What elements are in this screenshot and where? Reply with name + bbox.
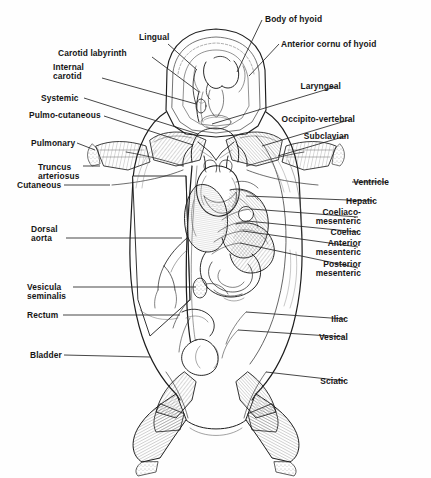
label-sciatic: Sciatic [320, 377, 348, 386]
leader-line-internal-carotid [102, 78, 196, 104]
leader-line-bladder [64, 355, 150, 357]
label-body-of-hyoid: Body of hyoid [265, 15, 322, 24]
body-wall-flap [133, 176, 190, 336]
label-line: mesenteric [316, 217, 361, 226]
label-line: Lingual [139, 33, 169, 42]
label-line: Occipito-vertebral [282, 115, 355, 124]
label-laryngeal: Laryngeal [301, 82, 341, 91]
label-line: Body of hyoid [265, 15, 322, 24]
leader-line-pulmo-cutaneous [104, 116, 193, 145]
leader-line-lingual [168, 44, 197, 70]
label-coeliac: Coeliac [331, 228, 362, 237]
label-line: Pulmo-cutaneous [29, 111, 101, 120]
label-line: aorta [31, 234, 58, 243]
label-line: Hepatic [346, 197, 377, 206]
label-pulmo-cutaneous: Pulmo-cutaneous [29, 111, 101, 120]
label-vesical: Vesical [319, 333, 348, 342]
label-line: Laryngeal [301, 82, 341, 91]
label-line: Systemic [41, 94, 79, 103]
label-line: Rectum [27, 311, 58, 320]
label-posterior-mesenteric: Posteriormesenteric [316, 260, 361, 278]
label-truncus-arteriosus: Truncusarteriosus [38, 163, 80, 181]
label-line: Cutaneous [17, 181, 61, 190]
label-line: Sciatic [320, 377, 348, 386]
label-coeliaco-mesenteric: Coeliaco-mesenteric [316, 208, 361, 226]
label-carotid-labyrinth: Carotid labyrinth [58, 49, 127, 58]
label-line: Iliac [331, 315, 348, 324]
anatomical-plate: Carotid labyrinthInternalcarotidSystemic… [0, 0, 431, 478]
label-subclavian: Subclavian [304, 132, 349, 141]
label-line: mesenteric [316, 248, 361, 257]
leader-line-body-of-hyoid [237, 20, 262, 72]
leader-line-anterior-cornu-of-hyoid [249, 44, 279, 76]
label-systemic: Systemic [41, 94, 79, 103]
label-line: Pulmonary [31, 139, 75, 148]
label-line: Vesical [319, 333, 348, 342]
label-line: mesenteric [316, 269, 361, 278]
label-line: Subclavian [304, 132, 349, 141]
label-lingual: Lingual [139, 33, 169, 42]
pelvic-girdle-and-hindlimbs [133, 312, 299, 476]
label-ventricle: Ventricle [353, 178, 389, 187]
label-occipito-vertebral: Occipito-vertebral [282, 115, 355, 124]
label-hepatic: Hepatic [346, 197, 377, 206]
label-cutaneous: Cutaneous [17, 181, 61, 190]
label-iliac: Iliac [331, 315, 348, 324]
label-pulmonary: Pulmonary [31, 139, 75, 148]
head-outline [166, 29, 266, 137]
label-line: Coeliac [331, 228, 362, 237]
leader-line-systemic [84, 98, 198, 134]
label-line: carotid [53, 72, 84, 81]
label-line: seminalis [27, 292, 66, 301]
label-vesicula-seminalis: Vesiculaseminalis [27, 283, 66, 301]
label-internal-carotid: Internalcarotid [53, 63, 84, 81]
label-anterior-mesenteric: Anteriormesenteric [316, 239, 361, 257]
label-line: Carotid labyrinth [58, 49, 127, 58]
label-line: Anterior cornu of hyoid [281, 40, 376, 49]
label-bladder: Bladder [30, 351, 62, 360]
label-dorsal-aorta: Dorsalaorta [31, 225, 58, 243]
label-rectum: Rectum [27, 311, 58, 320]
label-line: Bladder [30, 351, 62, 360]
label-anterior-cornu-of-hyoid: Anterior cornu of hyoid [281, 40, 376, 49]
label-line: Ventricle [353, 178, 389, 187]
